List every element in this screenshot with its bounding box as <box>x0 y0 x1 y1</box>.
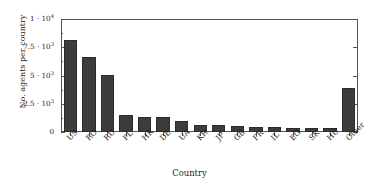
chart-figure: No. agents per country 02.5 · 1035 · 103… <box>0 0 379 189</box>
y-axis-title: No. agents per country <box>18 0 27 132</box>
y-tick-label: 2.5 · 103 <box>23 100 54 108</box>
y-tick-mark <box>61 132 65 133</box>
x-axis-title: Country <box>0 168 379 178</box>
x-tick-label-il: IL <box>269 130 281 142</box>
y-tick-label: 5 · 103 <box>30 72 54 80</box>
bar-series <box>61 19 358 132</box>
y-tick-label: 1 · 104 <box>30 15 54 23</box>
x-tick-label-jp: JP <box>214 130 226 142</box>
bar-ru <box>101 75 114 132</box>
bar-ro <box>82 57 95 132</box>
bar-us <box>64 40 77 132</box>
y-tick-label: 0 <box>49 128 54 136</box>
y-tick-label: 7.5 · 103 <box>23 43 54 51</box>
